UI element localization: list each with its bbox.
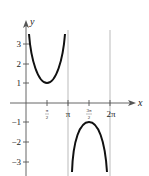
y-axis-label: y <box>29 16 35 27</box>
svg-text:1: 1 <box>17 78 22 88</box>
tick-label-pi-over-2: π <box>46 108 49 113</box>
tick-label-pi: π <box>66 109 71 119</box>
svg-text:−1: −1 <box>11 117 21 127</box>
x-tick-labels: π 2 π 3π 2 2π <box>45 108 116 120</box>
csc-curve-upper <box>29 34 65 83</box>
tick-label-3pi-over-2: 3π <box>86 108 92 113</box>
svg-text:−3: −3 <box>11 157 21 167</box>
svg-text:2: 2 <box>88 115 91 120</box>
csc-graph: x y π 2 π 3π 2 2π 3 2 1 −1 −2 −3 <box>0 0 149 176</box>
svg-text:2: 2 <box>17 59 22 69</box>
csc-curve-lower <box>72 122 107 172</box>
x-axis-label: x <box>137 97 143 108</box>
svg-text:2: 2 <box>46 115 49 120</box>
svg-text:3: 3 <box>17 39 22 49</box>
svg-text:−2: −2 <box>11 137 21 147</box>
tick-label-2pi: 2π <box>106 109 116 119</box>
